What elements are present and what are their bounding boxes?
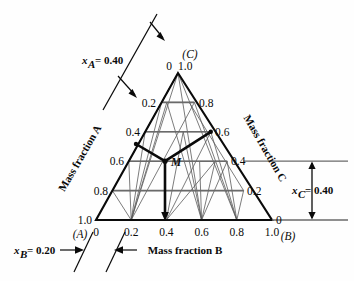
point-m-marker <box>162 159 167 164</box>
arrowhead-xc-down <box>308 212 315 220</box>
axis-title-b: Mass fraction B <box>148 244 223 256</box>
construction-lines <box>136 132 211 216</box>
tick-b-0: 0 <box>93 226 99 238</box>
vertex-label-b: (B) <box>281 230 296 243</box>
tick-a-1-0: 1.0 <box>78 214 93 226</box>
point-m-label: M <box>170 156 182 168</box>
annotation-xb-symbol: x <box>13 244 20 256</box>
figure-canvas: 0.2 0.4 0.6 0.8 1.0 0.8 0.6 0.4 0.2 0 0 … <box>0 0 354 281</box>
tick-c-0-4: 0.4 <box>231 155 246 167</box>
tick-a-0-8: 0.8 <box>94 185 109 197</box>
apex-one-label: 1.0 <box>178 60 193 72</box>
tick-c-0-6: 0.6 <box>215 126 230 138</box>
tick-b-0-4: 0.4 <box>159 226 174 238</box>
leader-xb <box>60 232 137 272</box>
tick-a-0-6: 0.6 <box>110 155 125 167</box>
tick-c-0-8: 0.8 <box>199 97 214 109</box>
tick-a-0-4: 0.4 <box>126 126 141 138</box>
axis-title-a: Mass fraction A <box>56 123 104 194</box>
annotation-xc-value: = 0.40 <box>305 184 334 196</box>
tick-b-0-8: 0.8 <box>230 226 245 238</box>
triangle-outline <box>96 73 272 220</box>
vertex-label-c: (C) <box>182 48 198 61</box>
apex-zero-label: 0 <box>166 60 172 72</box>
point-a-marker <box>134 142 138 146</box>
point-c-marker <box>209 130 213 134</box>
arrowhead-xa-upper <box>157 32 166 41</box>
annotation-xc-symbol: x <box>291 184 298 196</box>
annotation-xb: x B = 0.20 <box>13 244 56 260</box>
tick-b-0-2: 0.2 <box>124 226 139 238</box>
annotation-xa-symbol: x <box>81 54 88 66</box>
annotation-xb-value: = 0.20 <box>27 244 56 256</box>
grid-lines <box>96 73 244 220</box>
tick-b-0-6: 0.6 <box>194 226 209 238</box>
vertex-label-a: (A) <box>73 228 88 241</box>
tick-c-0: 0 <box>276 214 282 226</box>
axis-title-c: Mass fraction C <box>241 112 289 183</box>
arrowhead-xc-up <box>308 162 315 170</box>
tick-b-1-0: 1.0 <box>265 226 280 238</box>
tick-a-0-2: 0.2 <box>142 97 157 109</box>
annotation-xa-value: = 0.40 <box>95 54 124 66</box>
tick-c-0-2: 0.2 <box>247 185 262 197</box>
annotation-xa: x A = 0.40 <box>81 54 124 70</box>
ternary-diagram: 0.2 0.4 0.6 0.8 1.0 0.8 0.6 0.4 0.2 0 0 … <box>0 0 354 281</box>
arrowhead-xa-lower <box>129 89 138 98</box>
